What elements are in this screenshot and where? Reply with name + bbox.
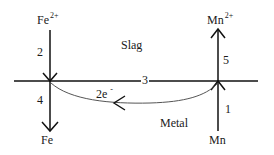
step-5-label: 5 <box>223 54 229 66</box>
step-4-label: 4 <box>37 94 43 106</box>
slag-metal-reaction-diagram: Fe2+ Mn2+ Fe Mn Slag Metal 2 4 3 5 1 2e- <box>0 0 274 155</box>
electron-transfer-curve <box>51 83 217 103</box>
step-2-label: 2 <box>37 46 43 58</box>
step-3-label: 3 <box>141 74 149 86</box>
fe-label: Fe <box>41 134 53 146</box>
fe2plus-label: Fe2+ <box>37 14 59 26</box>
step-1-label: 1 <box>225 103 231 115</box>
mn-label: Mn <box>209 134 226 146</box>
metal-region-label: Metal <box>160 117 188 129</box>
slag-region-label: Slag <box>121 39 142 51</box>
mn2plus-label: Mn2+ <box>207 14 233 26</box>
electron-label: 2e- <box>96 88 113 100</box>
